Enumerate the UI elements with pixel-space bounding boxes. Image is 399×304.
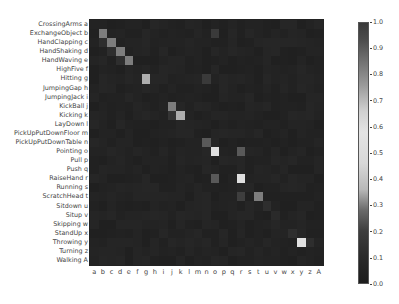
- matrix-cell: [194, 165, 203, 174]
- matrix-cell: [280, 102, 289, 111]
- matrix-cell: [219, 74, 228, 83]
- matrix-cell: [254, 147, 263, 156]
- matrix-cell: [202, 47, 211, 56]
- matrix-cell: [314, 129, 323, 138]
- matrix-cell: [133, 84, 142, 93]
- matrix-cell: [194, 47, 203, 56]
- matrix-cell: [297, 111, 306, 120]
- matrix-cell: [280, 47, 289, 56]
- matrix-cell: [314, 20, 323, 29]
- matrix-cell: [142, 74, 151, 83]
- matrix-cell: [306, 65, 315, 74]
- matrix-cell: [107, 201, 116, 210]
- matrix-cell: [176, 93, 185, 102]
- matrix-cell: [194, 201, 203, 210]
- matrix-cell: [133, 29, 142, 38]
- matrix-cell: [314, 56, 323, 65]
- matrix-cell: [194, 74, 203, 83]
- matrix-cell: [99, 74, 108, 83]
- matrix-cell: [125, 220, 134, 229]
- matrix-cell: [219, 247, 228, 256]
- matrix-cell: [245, 229, 254, 238]
- matrix-cell: [99, 238, 108, 247]
- matrix-cell: [142, 38, 151, 47]
- matrix-cell: [288, 238, 297, 247]
- matrix-cell: [254, 201, 263, 210]
- matrix-cell: [297, 56, 306, 65]
- matrix-cell: [90, 220, 99, 229]
- matrix-cell: [271, 93, 280, 102]
- matrix-cell: [99, 156, 108, 165]
- matrix-cell: [254, 84, 263, 93]
- matrix-cell: [245, 174, 254, 183]
- matrix-cell: [211, 147, 220, 156]
- matrix-cell: [90, 201, 99, 210]
- matrix-cell: [159, 84, 168, 93]
- matrix-cell: [271, 138, 280, 147]
- matrix-cell: [219, 229, 228, 238]
- matrix-cell: [159, 129, 168, 138]
- matrix-cell: [133, 93, 142, 102]
- matrix-cell: [194, 247, 203, 256]
- matrix-cell: [194, 84, 203, 93]
- column-label: A: [314, 268, 323, 276]
- matrix-cell: [168, 111, 177, 120]
- matrix-cell: [288, 247, 297, 256]
- matrix-cell: [314, 111, 323, 120]
- matrix-cell: [254, 211, 263, 220]
- matrix-cell: [150, 174, 159, 183]
- matrix-cell: [150, 211, 159, 220]
- matrix-cell: [142, 29, 151, 38]
- matrix-cell: [90, 93, 99, 102]
- matrix-cell: [314, 247, 323, 256]
- matrix-cell: [168, 238, 177, 247]
- matrix-cell: [288, 192, 297, 201]
- matrix-cell: [245, 93, 254, 102]
- matrix-cell: [211, 174, 220, 183]
- matrix-cell: [176, 47, 185, 56]
- matrix-cell: [297, 174, 306, 183]
- matrix-cell: [176, 211, 185, 220]
- matrix-cell: [254, 74, 263, 83]
- matrix-cell: [142, 183, 151, 192]
- colorbar-tick: 0.8: [370, 70, 383, 78]
- matrix-cell: [125, 183, 134, 192]
- matrix-cell: [314, 220, 323, 229]
- matrix-cell: [168, 29, 177, 38]
- matrix-cell: [288, 93, 297, 102]
- matrix-cell: [280, 147, 289, 156]
- matrix-cell: [133, 38, 142, 47]
- colorbar-tick: 1.0: [370, 18, 383, 26]
- matrix-cell: [263, 256, 272, 265]
- matrix-cell: [271, 247, 280, 256]
- matrix-cell: [219, 29, 228, 38]
- matrix-cell: [237, 165, 246, 174]
- matrix-cell: [314, 120, 323, 129]
- matrix-cell: [125, 256, 134, 265]
- row-label: KickBall j: [59, 102, 88, 111]
- matrix-cell: [245, 201, 254, 210]
- matrix-cell: [168, 256, 177, 265]
- matrix-cell: [228, 129, 237, 138]
- matrix-cell: [211, 102, 220, 111]
- row-label: PickUpPutDownTable n: [16, 138, 88, 147]
- matrix-cell: [306, 201, 315, 210]
- matrix-cell: [254, 174, 263, 183]
- matrix-cell: [142, 93, 151, 102]
- matrix-cell: [116, 174, 125, 183]
- matrix-cell: [133, 74, 142, 83]
- matrix-cell: [219, 201, 228, 210]
- matrix-cell: [202, 65, 211, 74]
- matrix-cell: [168, 20, 177, 29]
- matrix-cell: [228, 192, 237, 201]
- matrix-cell: [306, 74, 315, 83]
- matrix-cell: [99, 174, 108, 183]
- matrix-cell: [245, 84, 254, 93]
- matrix-cell: [159, 56, 168, 65]
- matrix-cell: [159, 65, 168, 74]
- matrix-cell: [245, 65, 254, 74]
- matrix-cell: [314, 238, 323, 247]
- matrix-cell: [90, 111, 99, 120]
- matrix-cell: [133, 165, 142, 174]
- matrix-cell: [116, 84, 125, 93]
